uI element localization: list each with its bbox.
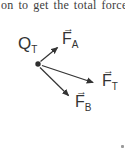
vector-label-ft: → FT [102, 73, 118, 89]
scan-artifact-speck [121, 145, 124, 148]
vector-label-fa: → FA [62, 31, 78, 47]
vector-line-fa [41, 48, 58, 62]
vector-subscript-fa: A [72, 39, 79, 50]
vector-arrow-icon: → [76, 86, 87, 97]
vector-line-fb [40, 68, 69, 96]
charge-subscript: T [31, 44, 37, 55]
vector-subscript-fb: B [85, 102, 92, 113]
vector-subscript-ft: T [112, 81, 118, 92]
vector-label-fb: → FB [75, 94, 91, 110]
charge-point-dot [35, 61, 40, 66]
vector-arrow-icon: → [103, 65, 114, 76]
charge-symbol: Q [18, 34, 31, 53]
charge-label-qt: QT [18, 35, 37, 52]
physics-force-diagram: on to get the total force F QT → FA → FT… [0, 0, 125, 156]
vector-arrow-icon: → [63, 23, 74, 34]
vector-line-ft [42, 66, 93, 83]
